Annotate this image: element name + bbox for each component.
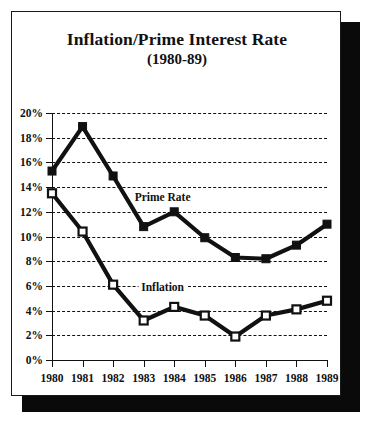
data-point-marker xyxy=(109,281,117,289)
x-axis-tick xyxy=(144,360,145,367)
y-axis-label: 20% xyxy=(20,107,43,119)
data-point-marker xyxy=(201,234,209,242)
y-axis-label: 4% xyxy=(26,305,43,317)
data-point-marker xyxy=(48,189,56,197)
data-point-marker xyxy=(292,241,300,249)
x-axis-label: 1988 xyxy=(285,372,308,384)
y-axis-label: 2% xyxy=(26,329,43,341)
data-point-marker xyxy=(323,297,331,305)
y-axis-label: 14% xyxy=(20,181,43,193)
y-axis-label: 0% xyxy=(26,354,43,366)
data-point-marker xyxy=(79,123,87,131)
x-axis-tick xyxy=(113,360,114,367)
x-axis-label: 1981 xyxy=(71,372,94,384)
data-point-marker xyxy=(231,333,239,341)
plot-wrapper: 0%2%4%6%8%10%12%14%16%18%20% 19801981198… xyxy=(12,12,342,397)
data-point-marker xyxy=(292,305,300,313)
x-axis-tick xyxy=(266,360,267,367)
data-point-marker xyxy=(48,167,56,175)
x-axis-label: 1980 xyxy=(41,372,64,384)
data-point-marker xyxy=(262,312,270,320)
y-axis-label: 8% xyxy=(26,255,43,267)
series-line xyxy=(52,193,327,336)
x-axis-label: 1989 xyxy=(316,372,339,384)
x-axis-tick xyxy=(174,360,175,367)
x-axis-tick xyxy=(52,360,53,367)
chart-panel: Inflation/Prime Interest Rate (1980-89) … xyxy=(11,11,341,396)
x-axis-tick xyxy=(83,360,84,367)
x-axis-tick xyxy=(205,360,206,367)
x-axis-tick xyxy=(235,360,236,367)
series-annotation: Prime Rate xyxy=(132,191,194,203)
x-axis-label: 1986 xyxy=(224,372,247,384)
x-axis-label: 1984 xyxy=(163,372,186,384)
x-axis-label: 1987 xyxy=(254,372,277,384)
x-axis-label: 1982 xyxy=(102,372,125,384)
data-point-marker xyxy=(231,253,239,261)
data-point-marker xyxy=(140,223,148,231)
x-axis-label: 1983 xyxy=(132,372,155,384)
data-point-marker xyxy=(170,208,178,216)
x-axis-tick xyxy=(296,360,297,367)
data-point-marker xyxy=(109,172,117,180)
series-annotation: Inflation xyxy=(138,281,187,293)
x-axis-tick xyxy=(327,360,328,367)
data-point-marker xyxy=(262,255,270,263)
data-point-marker xyxy=(140,316,148,324)
y-axis-label: 10% xyxy=(20,231,43,243)
x-axis-label: 1985 xyxy=(193,372,216,384)
series-plot xyxy=(52,113,327,360)
y-axis-label: 18% xyxy=(20,132,43,144)
gridline xyxy=(52,360,327,361)
y-axis-label: 12% xyxy=(20,206,43,218)
data-point-marker xyxy=(79,228,87,236)
y-axis-label: 6% xyxy=(26,280,43,292)
y-axis-label: 16% xyxy=(20,156,43,168)
data-point-marker xyxy=(170,303,178,311)
plot-area: 0%2%4%6%8%10%12%14%16%18%20% 19801981198… xyxy=(52,113,327,360)
data-point-marker xyxy=(201,312,209,320)
data-point-marker xyxy=(323,220,331,228)
